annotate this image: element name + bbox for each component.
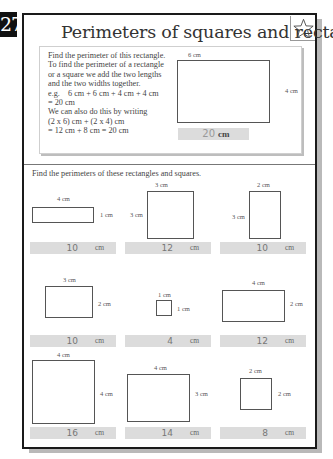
problem-3-top-label: 2 cm [257, 181, 270, 188]
problem-4-top-label: 3 cm [63, 276, 76, 283]
example-line: e.g. 6 cm + 6 cm + 4 cm + 4 cm [48, 89, 168, 98]
problem-6-side-label: 2 cm [290, 300, 303, 307]
problem-2-top-label: 3 cm [155, 181, 168, 188]
problem-7-square [32, 360, 95, 424]
example-line: or a square we add the two lengths [48, 70, 168, 79]
problem-8-side-label: 3 cm [195, 390, 208, 397]
problem-1-rectangle [32, 207, 94, 223]
example-line: Find the perimeter of this rectangle. [48, 51, 168, 60]
problem-1-answer-unit: cm [95, 242, 104, 254]
problem-6-top-label: 4 cm [252, 279, 265, 286]
problem-3-answer-unit: cm [285, 242, 294, 254]
problem-4-rectangle [45, 286, 93, 318]
problem-9-top-label: 2 cm [249, 367, 262, 374]
example-side-label: 4 cm [285, 87, 298, 94]
worksheet-frame: Perimeters of squares and rectangles Fin… [22, 13, 317, 449]
star-outline-icon [293, 18, 314, 39]
problem-3-answer-box: 10 cm [220, 242, 306, 254]
problem-6-answer-box: 12 cm [220, 335, 306, 347]
problem-1-side-label: 1 cm [100, 211, 113, 218]
page-number: 27 [0, 12, 17, 37]
problem-4-answer-value: 10 [30, 335, 78, 347]
problem-9-square [240, 378, 272, 410]
example-rectangle [177, 60, 270, 123]
example-explanation: Find the perimeter of this rectangle. To… [48, 51, 168, 136]
example-top-label: 6 cm [188, 51, 201, 58]
problem-5-side-label: 1 cm [177, 305, 190, 312]
problem-8-rectangle [127, 374, 190, 422]
problem-9-side-label: 2 cm [278, 390, 291, 397]
example-answer-value: 20 [178, 128, 215, 140]
problem-3-answer-value: 10 [220, 242, 268, 254]
problem-7-answer-box: 16 cm [30, 427, 116, 439]
example-line: = 12 cm + 8 cm = 20 cm [48, 126, 168, 135]
example-answer-box: 20 cm [178, 128, 249, 140]
example-panel: Find the perimeter of this rectangle. To… [39, 46, 302, 154]
problem-7-top-label: 4 cm [57, 351, 70, 358]
problem-1-top-label: 4 cm [57, 195, 70, 202]
problem-8-answer-value: 14 [125, 427, 173, 439]
problem-3-rectangle [249, 191, 281, 239]
problem-7-answer-value: 16 [30, 427, 78, 439]
problem-6-answer-value: 12 [220, 335, 268, 347]
problem-3-side-label: 3 cm [232, 213, 245, 220]
problem-5-answer-unit: cm [190, 335, 199, 347]
star-badge [290, 16, 315, 41]
exercise-instructions: Find the perimeters of these rectangles … [32, 169, 201, 178]
problem-2-answer-value: 12 [125, 242, 173, 254]
problem-6-rectangle [222, 290, 285, 322]
section-divider [24, 164, 315, 165]
problem-1-answer-value: 10 [30, 242, 78, 254]
problem-6-answer-unit: cm [285, 335, 294, 347]
page-title: Perimeters of squares and rectangles [61, 22, 288, 42]
example-line: We can also do this by writing [48, 107, 168, 116]
problem-8-top-label: 4 cm [154, 364, 167, 371]
example-line: (2 x 6) cm + (2 x 4) cm [48, 117, 168, 126]
example-answer-unit: cm [218, 128, 230, 140]
problem-9-answer-box: 8 cm [220, 427, 306, 439]
problem-5-square [156, 300, 172, 316]
problem-7-side-label: 4 cm [100, 390, 113, 397]
example-line: and the two widths together. [48, 79, 168, 88]
problem-5-top-label: 1 cm [158, 291, 171, 298]
problem-7-answer-unit: cm [95, 427, 104, 439]
problem-9-answer-value: 8 [220, 427, 268, 439]
problem-2-side-label: 3 cm [130, 211, 143, 218]
example-line: To find the perimeter of a rectangle [48, 60, 168, 69]
problem-5-answer-box: 4 cm [125, 335, 211, 347]
problem-2-answer-unit: cm [190, 242, 199, 254]
problem-1-answer-box: 10 cm [30, 242, 116, 254]
problem-4-side-label: 2 cm [98, 300, 111, 307]
problem-8-answer-unit: cm [190, 427, 199, 439]
problem-2-answer-box: 12 cm [125, 242, 211, 254]
problem-4-answer-box: 10 cm [30, 335, 116, 347]
problem-8-answer-box: 14 cm [125, 427, 211, 439]
problem-9-answer-unit: cm [285, 427, 294, 439]
example-line: = 20 cm [48, 98, 168, 107]
problem-4-answer-unit: cm [95, 335, 104, 347]
problem-5-answer-value: 4 [125, 335, 173, 347]
problem-2-square [147, 191, 194, 239]
